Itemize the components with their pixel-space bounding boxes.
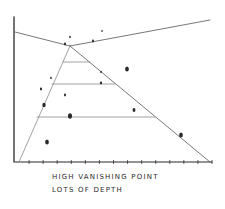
dot xyxy=(45,139,49,144)
dot xyxy=(133,108,136,112)
horizon-line xyxy=(70,20,210,46)
dot xyxy=(100,82,102,85)
dot xyxy=(125,66,129,71)
dot xyxy=(100,71,102,73)
axes xyxy=(14,17,212,162)
caption-line-1: HIGH VANISHING POINT xyxy=(52,173,159,181)
dot xyxy=(68,113,72,119)
caption-line-2: LOTS OF DEPTH xyxy=(52,186,123,194)
depth-lines xyxy=(37,62,155,117)
dot xyxy=(50,77,52,79)
converging-lines xyxy=(19,46,210,162)
horizon-lines xyxy=(15,20,210,46)
dot xyxy=(92,40,94,43)
dot xyxy=(179,132,183,137)
dot xyxy=(64,43,66,46)
dot xyxy=(64,94,66,97)
dots xyxy=(40,30,183,145)
dot xyxy=(101,30,103,32)
converging-line xyxy=(70,46,210,162)
dot xyxy=(40,88,42,91)
horizon-line xyxy=(15,32,70,46)
dot xyxy=(69,36,71,38)
dot xyxy=(42,103,45,108)
